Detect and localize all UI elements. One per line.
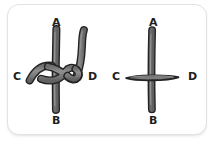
right-vertical-strand-A-B [151, 30, 153, 109]
right-figure-label-B: B [149, 115, 158, 126]
screenshot-root: A B C D [0, 0, 215, 143]
right-horizontal-strand-C-D [126, 75, 178, 80]
right-figure-label-D: D [188, 71, 197, 82]
right-figure-label-A: A [149, 17, 158, 28]
figures-container: A B C D [8, 5, 206, 134]
diagram-card: A B C D [7, 4, 207, 135]
right-figure-cross-diagram [8, 5, 206, 134]
right-figure-label-C: C [112, 71, 120, 82]
